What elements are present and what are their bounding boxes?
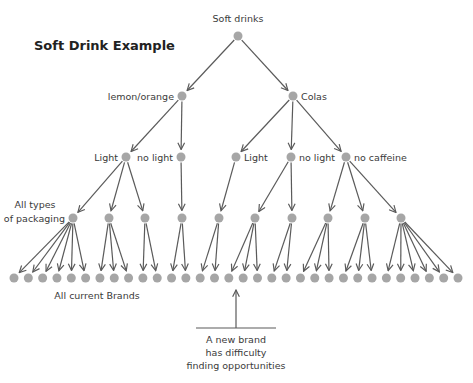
edge-arrow <box>330 162 344 211</box>
annotation-line: has difficulty <box>206 347 267 358</box>
edge-arrow <box>291 162 292 210</box>
edge-arrow <box>143 223 145 270</box>
subcategory-label: no caffeine <box>354 152 407 163</box>
edge-arrow <box>181 162 182 210</box>
packaging-label: of packaging <box>4 213 65 224</box>
edge-arrow <box>348 162 363 211</box>
edge-arrow <box>128 162 143 211</box>
edge-arrow <box>46 223 70 271</box>
brand-leaf-node <box>52 274 61 283</box>
packaging-node <box>69 214 78 223</box>
edge-arrow <box>350 161 396 212</box>
leaves-label: All current Brands <box>54 290 139 301</box>
brand-leaf-node <box>81 274 90 283</box>
diagram-title: Soft Drink Example <box>34 38 175 53</box>
packaging-node <box>288 214 297 223</box>
brand-leaf-node <box>368 274 377 283</box>
subcategory-node <box>287 153 296 162</box>
brand-leaf-node <box>310 274 319 283</box>
brand-leaf-node <box>411 274 420 283</box>
edge-arrow <box>404 222 439 271</box>
subcategory-label: no light <box>137 152 173 163</box>
new-brand-annotation: A new brandhas difficultyfinding opportu… <box>187 290 286 371</box>
edge-arrow <box>181 101 182 149</box>
edge-arrow <box>403 223 426 271</box>
subcategory-label: Light <box>94 152 118 163</box>
brand-tree-diagram: Soft Drink Example Soft drinkslemon/oran… <box>0 0 473 383</box>
edge-arrow <box>241 100 289 152</box>
brand-leaf-node <box>110 274 119 283</box>
edge-arrow <box>359 223 365 270</box>
packaging-node <box>141 214 150 223</box>
brand-leaf-node <box>454 274 463 283</box>
packaging-node <box>324 214 333 223</box>
edge-arrow <box>388 223 400 270</box>
brand-leaf-node <box>339 274 348 283</box>
edge-arrow <box>74 223 84 270</box>
edge-arrow <box>402 223 413 270</box>
packaging-node <box>105 214 114 223</box>
edge-arrow <box>297 100 341 151</box>
edge-arrow <box>182 223 185 270</box>
brand-leaf-node <box>224 274 233 283</box>
brand-leaf-node <box>396 274 405 283</box>
edge-arrow <box>101 223 108 270</box>
edge-arrow <box>346 223 363 271</box>
brand-leaf-node <box>196 274 205 283</box>
brand-leaf-node <box>10 274 19 283</box>
brand-leaf-node <box>239 274 248 283</box>
brand-leaf-node <box>353 274 362 283</box>
edge-arrow <box>304 223 326 271</box>
annotation-line: finding opportunities <box>187 360 286 371</box>
brand-leaf-node <box>24 274 33 283</box>
subcategory-label: Light <box>244 152 268 163</box>
packaging-node <box>215 214 224 223</box>
packaging-node <box>251 214 260 223</box>
edge-arrow <box>146 223 156 270</box>
subcategory-node <box>342 153 351 162</box>
brand-leaf-node <box>95 274 104 283</box>
edge-arrow <box>72 223 73 270</box>
packaging-node <box>178 214 187 223</box>
category-node <box>178 92 187 101</box>
brand-leaf-node <box>267 274 276 283</box>
edge-arrow <box>255 223 257 270</box>
brand-leaf-node <box>253 274 262 283</box>
category-node <box>289 92 298 101</box>
subcategory-label: no light <box>299 152 335 163</box>
brand-leaf-node <box>138 274 147 283</box>
edge-arrow <box>131 100 178 151</box>
brand-leaf-node <box>67 274 76 283</box>
packaging-label: All types <box>15 199 56 210</box>
edge-arrow <box>291 101 293 149</box>
brand-leaf-node <box>181 274 190 283</box>
subcategory-node <box>122 153 131 162</box>
edge-arrow <box>173 223 181 270</box>
root-node <box>234 32 243 41</box>
brand-leaf-node <box>210 274 219 283</box>
brand-leaf-node <box>425 274 434 283</box>
packaging-node <box>361 214 370 223</box>
edge-arrow <box>187 40 234 90</box>
brand-leaf-node <box>124 274 133 283</box>
brand-leaf-node <box>38 274 47 283</box>
edge-arrow <box>33 222 70 272</box>
brand-leaf-node <box>153 274 162 283</box>
edge-arrow <box>242 40 288 90</box>
edge-arrow <box>366 223 372 270</box>
category-label: lemon/orange <box>108 91 174 102</box>
brand-leaf-node <box>296 274 305 283</box>
edge-arrow <box>111 162 125 210</box>
brand-leaf-node <box>325 274 334 283</box>
brand-leaf-node <box>439 274 448 283</box>
brand-leaf-node <box>382 274 391 283</box>
edge-arrow <box>78 161 122 212</box>
annotation-line: A new brand <box>206 334 266 345</box>
edge-arrow <box>316 223 326 270</box>
edge-arrow <box>328 223 329 270</box>
brand-leaf-node <box>167 274 176 283</box>
category-label: Colas <box>301 91 327 102</box>
root-label: Soft drinks <box>213 13 264 24</box>
brand-leaf-node <box>282 274 291 283</box>
edge-arrow <box>19 222 69 273</box>
